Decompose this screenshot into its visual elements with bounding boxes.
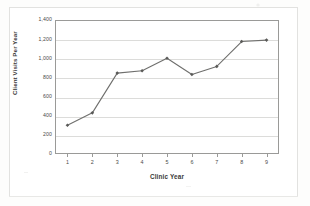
series-line — [67, 40, 266, 125]
line-chart: 1,4001,2001,0008006004002000 123456789 C… — [0, 0, 310, 206]
data-point-marker — [140, 69, 144, 73]
x-axis-title: Clinic Year — [55, 174, 279, 180]
y-axis-title: Client Visits Per Year — [12, 8, 18, 118]
figure: 1,4001,2001,0008006004002000 123456789 C… — [0, 0, 310, 206]
data-point-marker — [66, 123, 70, 127]
data-point-marker — [265, 38, 269, 42]
series-markers — [66, 38, 269, 127]
